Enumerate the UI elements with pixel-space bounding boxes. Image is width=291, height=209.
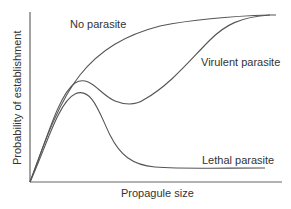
label-no-parasite: No parasite	[70, 18, 126, 30]
label-virulent-parasite: Virulent parasite	[201, 56, 280, 68]
chart-canvas: No parasite Virulent parasite Lethal par…	[0, 0, 291, 209]
x-axis-label: Propagule size	[121, 187, 194, 199]
label-lethal-parasite: Lethal parasite	[202, 154, 274, 166]
establishment-chart: No parasite Virulent parasite Lethal par…	[0, 0, 291, 209]
y-axis-label: Probability of establishment	[11, 30, 23, 165]
curve-lethal-parasite	[30, 93, 265, 182]
